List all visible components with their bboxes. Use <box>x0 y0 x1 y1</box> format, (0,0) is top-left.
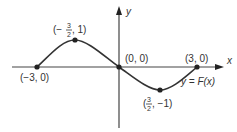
point-origin <box>116 64 121 69</box>
label-peak-close: , 1) <box>72 24 86 35</box>
label-origin: (0, 0) <box>125 53 148 64</box>
x-axis-arrow-icon <box>215 64 224 70</box>
point-neg3 <box>34 64 39 69</box>
curve-F <box>37 40 197 90</box>
label-peak-open: (− <box>53 24 62 35</box>
y-axis-label: y <box>125 6 132 17</box>
label-3: (3, 0) <box>185 53 208 64</box>
y-axis-arrow-icon <box>116 6 122 15</box>
point-peak <box>72 37 77 42</box>
graph: x y (−3, 0) (0, 0) (3, 0) (− 3 2 , 1) ( … <box>0 0 237 132</box>
label-trough-den: 2 <box>147 105 151 112</box>
point-trough <box>157 87 162 92</box>
point-3 <box>194 64 199 69</box>
label-trough-close: , −1) <box>152 98 172 109</box>
label-peak-den: 2 <box>67 31 71 38</box>
label-neg3: (−3, 0) <box>20 72 49 83</box>
label-peak-num: 3 <box>67 22 71 29</box>
curve-label: y = F(x) <box>180 76 215 87</box>
x-axis-label: x <box>226 55 233 66</box>
label-trough-num: 3 <box>147 96 151 103</box>
